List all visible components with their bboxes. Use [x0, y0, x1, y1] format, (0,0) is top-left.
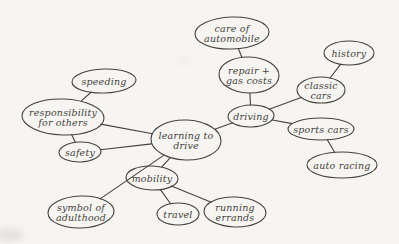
node-travel: travel — [157, 203, 199, 225]
concept-map-svg: care ofautomobilehistoryrepair +gas cost… — [0, 0, 399, 244]
edge-learning-to-drive--mobility — [162, 158, 170, 167]
edge-responsibility-for-others--safety — [72, 135, 76, 143]
edge-sports-cars--auto-racing — [327, 140, 334, 153]
edge-driving--repair-gas-costs — [250, 93, 251, 105]
edge-driving--sports-cars — [272, 120, 292, 124]
node-label: driving — [233, 111, 269, 122]
node-history: history — [324, 41, 374, 65]
node-repair-gas-costs: repair +gas costs — [218, 56, 279, 94]
node-responsibility-for-others: responsibilityfor others — [21, 98, 104, 137]
edge-learning-to-drive--driving — [215, 123, 232, 129]
node-running-errands: runningerrands — [203, 196, 266, 228]
node-label: mobility — [132, 173, 173, 184]
node-label: travel — [163, 209, 192, 220]
node-classic-cars: classiccars — [297, 77, 345, 103]
node-symbol-of-adulthood: symbol ofadulthood — [47, 195, 114, 229]
node-label: repair +gas costs — [226, 65, 272, 86]
edge-repair-gas-costs--care-of-automobile — [238, 49, 242, 58]
node-mobility: mobility — [126, 165, 179, 191]
node-auto-racing: auto racing — [307, 152, 377, 178]
node-label: speeding — [81, 76, 126, 87]
node-label: care ofautomobile — [204, 23, 260, 44]
edge-speeding--responsibility-for-others — [81, 92, 91, 101]
node-label: responsibilityfor others — [29, 107, 97, 128]
edge-classic-cars--history — [330, 64, 340, 78]
node-learning-to-drive: learning todrive — [150, 119, 221, 161]
node-label: classiccars — [304, 80, 338, 101]
node-label: history — [332, 48, 367, 59]
node-safety: safety — [59, 141, 102, 162]
edge-mobility--running-errands — [171, 186, 211, 202]
node-speeding: speeding — [72, 68, 137, 94]
node-label: learning todrive — [159, 130, 214, 151]
node-driving: driving — [228, 104, 275, 128]
node-label: safety — [65, 147, 95, 158]
node-sports-cars: sports cars — [288, 118, 354, 140]
edge-mobility--travel — [160, 189, 170, 203]
node-label: symbol ofadulthood — [56, 202, 106, 223]
scanned-paper: care ofautomobilehistoryrepair +gas cost… — [0, 0, 399, 244]
node-label: runningerrands — [215, 202, 255, 223]
edge-responsibility-for-others--learning-to-drive — [101, 124, 153, 134]
edge-safety--learning-to-drive — [100, 144, 151, 150]
edge-driving--classic-cars — [269, 97, 301, 109]
node-care-of-automobile: care ofautomobile — [194, 16, 269, 51]
node-label: sports cars — [293, 124, 349, 135]
node-label: auto racing — [313, 160, 370, 171]
